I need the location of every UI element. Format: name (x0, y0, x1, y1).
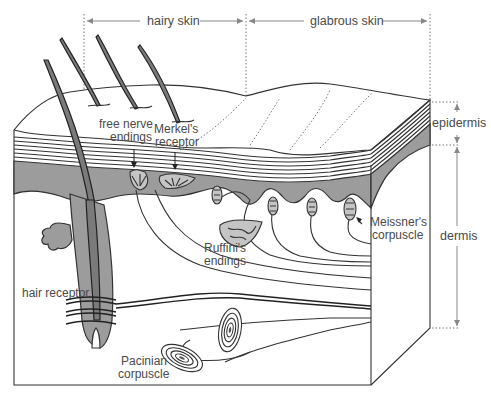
nerve-fibers (116, 190, 371, 362)
merkel-receptor-label-2: receptor (155, 135, 199, 149)
skin-receptors-diagram: hairy skin glabrous skin (0, 0, 491, 403)
free-nerve-endings-label-2: endings (110, 130, 152, 144)
layer-dimension-markers (432, 102, 460, 328)
pacinian-corpuscles (157, 306, 244, 377)
free-nerve-endings-label-1: free nerve (99, 117, 153, 131)
dermis-label: dermis (440, 229, 478, 243)
ruffini-endings-label-1: Ruffini's (204, 241, 246, 255)
glabrous-skin-label: glabrous skin (310, 14, 384, 28)
epidermis-label: epidermis (432, 116, 486, 130)
pacinian-corpuscle-label-2: corpuscle (118, 367, 170, 381)
meissner-corpuscle-label-2: corpuscle (372, 228, 424, 242)
hairy-skin-label: hairy skin (147, 14, 200, 28)
hair-follicle (42, 194, 116, 348)
hair-receptor-label: hair receptor (22, 286, 89, 300)
ruffini-endings-label-2: endings (204, 254, 246, 268)
pacinian-corpuscle-label-1: Pacinian (121, 354, 167, 368)
meissner-corpuscle-label-1: Meissner's (370, 215, 427, 229)
merkel-receptor-label-1: Merkel's (154, 122, 198, 136)
